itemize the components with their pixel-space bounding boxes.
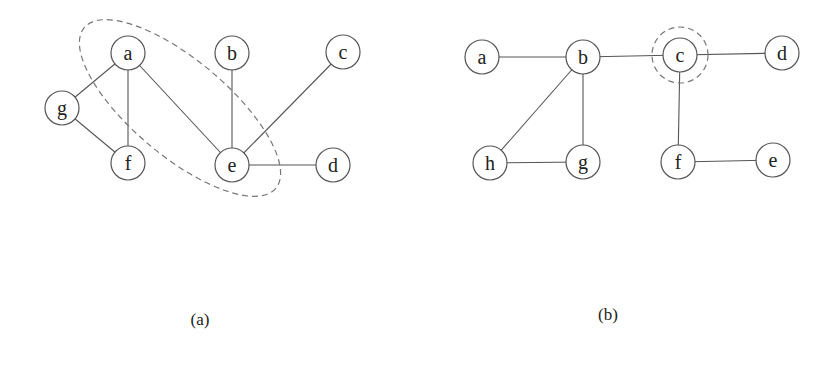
node-label: g (57, 97, 67, 120)
node-c: c (663, 38, 697, 72)
figure-b-edges (482, 53, 782, 163)
node-g: g (566, 145, 600, 179)
node-e: e (215, 148, 249, 182)
figure-a-caption: (a) (191, 310, 210, 329)
figure-a-edges (62, 52, 343, 165)
node-a: a (465, 40, 499, 74)
node-b: b (215, 36, 249, 70)
figure-a-highlight-ellipse (53, 0, 306, 225)
node-label: g (578, 151, 588, 174)
node-d: d (316, 148, 350, 182)
figure-b-nodes: abcdhgfe (465, 36, 799, 180)
node-label: c (339, 41, 348, 63)
node-f: f (111, 146, 145, 180)
figure-a-nodes: abcgfed (45, 35, 360, 182)
node-label: a (478, 46, 487, 68)
figure-b: abcdhgfe (b) (465, 27, 799, 324)
node-label: d (777, 42, 787, 64)
node-label: h (485, 152, 495, 174)
node-d: d (765, 36, 799, 70)
edge-a-e (128, 53, 232, 165)
node-label: f (125, 152, 132, 174)
node-label: d (328, 154, 338, 176)
node-label: a (124, 42, 133, 64)
node-label: b (578, 46, 588, 68)
node-label: b (227, 42, 237, 64)
node-label: f (675, 151, 682, 173)
node-h: h (473, 146, 507, 180)
node-f: f (661, 145, 695, 179)
node-label: e (228, 154, 237, 176)
node-label: e (769, 149, 778, 171)
edge-b-h (490, 57, 583, 163)
figure-b-caption: (b) (598, 305, 618, 324)
node-c: c (326, 35, 360, 69)
dashed-ellipse (53, 0, 306, 225)
node-a: a (111, 36, 145, 70)
node-e: e (756, 143, 790, 177)
figure-a: abcgfed (a) (45, 0, 360, 329)
node-label: c (676, 44, 685, 66)
graph-diagram-canvas: abcgfed (a) abcdhgfe (b) (0, 0, 840, 369)
node-b: b (566, 40, 600, 74)
node-g: g (45, 91, 79, 125)
